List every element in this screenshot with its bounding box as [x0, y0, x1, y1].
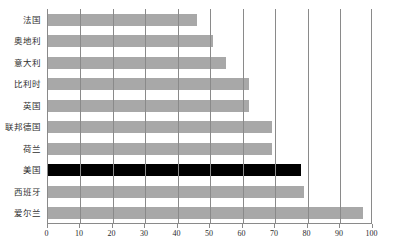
x-tick: [177, 224, 178, 228]
x-tick: [274, 224, 275, 228]
bar-联邦德国: [48, 121, 272, 133]
x-tick: [144, 224, 145, 228]
plot-area: [47, 9, 372, 224]
y-label-法国: 法国: [23, 15, 41, 25]
gridline: [243, 9, 244, 223]
x-tick: [209, 224, 210, 228]
x-tick: [47, 224, 48, 228]
x-tick-label-80: 80: [303, 229, 311, 238]
bar-美国: [48, 164, 302, 176]
gridline: [210, 9, 211, 223]
y-label-比利时: 比利时: [14, 79, 41, 89]
x-tick-label-40: 40: [173, 229, 181, 238]
bar-row: [48, 186, 371, 198]
gridline: [145, 9, 146, 223]
y-axis-category-labels: 法国奥地利意大利比利时英国联邦德国荷兰美国西班牙爱尔兰: [0, 9, 43, 224]
x-tick-label-20: 20: [108, 229, 116, 238]
x-tick-label-70: 70: [270, 229, 278, 238]
bar-荷兰: [48, 143, 272, 155]
y-label-爱尔兰: 爱尔兰: [14, 208, 41, 218]
x-tick-label-60: 60: [238, 229, 246, 238]
bar-row: [48, 14, 371, 26]
x-tick: [307, 224, 308, 228]
x-tick: [242, 224, 243, 228]
y-label-西班牙: 西班牙: [14, 187, 41, 197]
y-label-意大利: 意大利: [14, 58, 41, 68]
bar-row: [48, 207, 371, 219]
x-tick-label-100: 100: [366, 229, 378, 238]
gridline: [275, 9, 276, 223]
y-label-联邦德国: 联邦德国: [5, 122, 41, 132]
bar-row: [48, 143, 371, 155]
x-axis-ticks: 0102030405060708090100: [47, 224, 372, 246]
chart-title: [0, 0, 393, 4]
bar-row: [48, 164, 371, 176]
bar-西班牙: [48, 186, 305, 198]
bar-row: [48, 121, 371, 133]
bar-英国: [48, 100, 250, 112]
bar-row: [48, 78, 371, 90]
bar-爱尔兰: [48, 207, 363, 219]
bar-意大利: [48, 57, 227, 69]
x-tick-label-10: 10: [75, 229, 83, 238]
x-tick: [372, 224, 373, 228]
bar-奥地利: [48, 35, 214, 47]
y-label-荷兰: 荷兰: [23, 144, 41, 154]
x-tick: [112, 224, 113, 228]
y-label-奥地利: 奥地利: [14, 36, 41, 46]
bar-row: [48, 35, 371, 47]
x-tick-label-30: 30: [140, 229, 148, 238]
bar-chart: 法国奥地利意大利比利时英国联邦德国荷兰美国西班牙爱尔兰 010203040506…: [0, 0, 393, 249]
gridline: [308, 9, 309, 223]
gridline: [340, 9, 341, 223]
bar-row: [48, 100, 371, 112]
y-label-英国: 英国: [23, 101, 41, 111]
bar-比利时: [48, 78, 250, 90]
x-tick-label-0: 0: [45, 229, 49, 238]
x-tick-label-90: 90: [335, 229, 343, 238]
bar-法国: [48, 14, 198, 26]
gridline: [113, 9, 114, 223]
gridline: [80, 9, 81, 223]
gridline: [178, 9, 179, 223]
bar-row: [48, 57, 371, 69]
bar-series: [48, 9, 371, 223]
x-tick: [79, 224, 80, 228]
y-label-美国: 美国: [23, 165, 41, 175]
x-tick-label-50: 50: [205, 229, 213, 238]
x-tick: [339, 224, 340, 228]
